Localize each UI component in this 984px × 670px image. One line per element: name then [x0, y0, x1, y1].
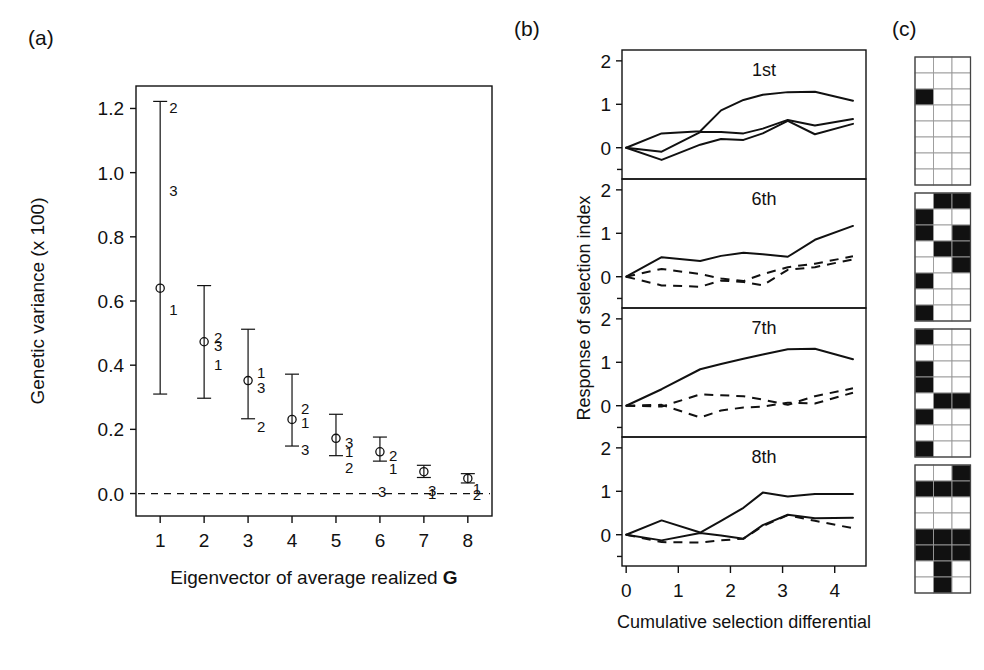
panel-c-cell-empty: [915, 393, 934, 409]
panel-b-series-dashed: [626, 515, 853, 542]
panel-a-x-tick-label: 5: [331, 530, 342, 551]
panel-c-cell-empty: [934, 409, 953, 425]
panel-c-cell-empty: [915, 73, 934, 89]
panel-c-cell-empty: [952, 441, 971, 457]
panel-c-cell-filled: [952, 241, 971, 257]
panel-c-cell-empty: [934, 73, 953, 89]
panel-b-series-solid: [626, 121, 853, 160]
panel-c-cell-empty: [915, 289, 934, 305]
panel-c-cell-empty: [934, 257, 953, 273]
panel-c-cell-empty: [952, 497, 971, 513]
panel-b-subplot-8th: 0128th01234Cumulative selection differen…: [600, 437, 870, 632]
panel-b-x-axis: 01234Cumulative selection differential: [617, 566, 871, 632]
panel-b-subplot-title: 8th: [751, 447, 776, 467]
panel-c-cell-empty: [915, 193, 934, 209]
panel-b-y-tick-label: 0: [600, 525, 611, 546]
panel-c-cell-filled: [915, 209, 934, 225]
panel-b-series-dashed: [626, 256, 853, 281]
panel-c-cell-empty: [952, 73, 971, 89]
panel-c-cell-empty: [934, 441, 953, 457]
panel-c-cell-empty: [952, 425, 971, 441]
panel-b-series-solid: [626, 515, 853, 541]
panel-a-replicate-label: 2: [345, 459, 353, 476]
panel-b-y-tick-label: 0: [600, 138, 611, 159]
panel-a-replicate-label: 2: [169, 99, 177, 116]
panel-a-replicate-label: 3: [301, 441, 309, 458]
panel-c-cell-filled: [934, 193, 953, 209]
panel-c-block-2: [915, 193, 971, 321]
panel-c-cell-empty: [934, 361, 953, 377]
panel-c-cell-empty: [934, 209, 953, 225]
panel-c-cell-filled: [952, 481, 971, 497]
panel-c-cell-empty: [915, 169, 934, 185]
panel-b-series-solid: [626, 493, 853, 535]
panel-a-x-axis-title-text: Eigenvector of average realized: [170, 567, 443, 588]
panel-c-cell-empty: [934, 329, 953, 345]
panel-c-cell-filled: [952, 257, 971, 273]
panel-c-cell-filled: [915, 441, 934, 457]
panel-b-subplot-frame: [622, 437, 866, 566]
panel-b-y-tick-label: 2: [600, 438, 611, 459]
panel-a-replicate-label: 3: [169, 182, 177, 199]
panel-b-y-tick-label: 1: [600, 481, 611, 502]
panel-a-x-tick-label: 1: [155, 530, 166, 551]
panel-c-cell-empty: [915, 465, 934, 481]
panel-c-cell-filled: [952, 545, 971, 561]
panel-c-cell-filled: [934, 393, 953, 409]
panel-c-cell-filled: [915, 305, 934, 321]
panel-c-cell-empty: [934, 89, 953, 105]
panel-b-series-dashed: [626, 388, 853, 406]
panel-a-y-axis: 1.21.00.80.60.40.20.0Genetic variance (x…: [27, 98, 136, 504]
panel-c-cell-empty: [915, 345, 934, 361]
panel-c-cell-empty: [934, 377, 953, 393]
panel-b-x-tick-label: 3: [777, 580, 788, 601]
panel-a-replicate-label: 3: [257, 379, 265, 396]
panel-c-cell-empty: [934, 137, 953, 153]
panel-c-cell-filled: [952, 393, 971, 409]
panel-a-replicate-label: 1: [345, 443, 353, 460]
panel-c-cell-empty: [915, 57, 934, 73]
panel-a-data-point: [373, 437, 387, 461]
panel-a-data-point: [285, 374, 299, 446]
panel-a-plot-frame: [136, 86, 492, 516]
panel-c-cell-filled: [952, 465, 971, 481]
panel-c-letter: (c): [892, 17, 917, 40]
panel-a-replicate-label: 1: [169, 301, 177, 318]
panel-c-block-4: [915, 465, 971, 593]
panel-a-y-tick-label: 1.0: [98, 163, 124, 184]
panel-b-y-tick-label: 0: [600, 267, 611, 288]
panel-a-data-point: [417, 465, 431, 477]
panel-a-x-tick-label: 3: [243, 530, 254, 551]
panel-c-cell-empty: [952, 377, 971, 393]
panel-c-cell-empty: [934, 289, 953, 305]
panel-c-cell-empty: [952, 305, 971, 321]
panel-a-letter: (a): [28, 26, 54, 49]
panel-a-x-axis-title: Eigenvector of average realized G: [170, 567, 457, 588]
panel-c-cell-filled: [952, 193, 971, 209]
panel-a-y-tick-label: 0.2: [98, 419, 124, 440]
panel-c-cell-empty: [934, 105, 953, 121]
panel-c-cell-filled: [915, 361, 934, 377]
panel-c-cell-filled: [915, 545, 934, 561]
panel-c-cell-empty: [952, 57, 971, 73]
panel-a-data-point: [241, 329, 255, 419]
panel-a-y-tick-label: 0.6: [98, 291, 124, 312]
panel-b-subplot-frame: [622, 179, 866, 308]
panel-a-replicate-label: 3: [378, 483, 386, 500]
panel-a-data-point: [329, 414, 343, 455]
panel-c-cell-empty: [934, 513, 953, 529]
panel-a-replicate-label: 3: [214, 337, 222, 354]
panel-a-x-tick-label: 6: [375, 530, 386, 551]
panel-c-cell-empty: [952, 121, 971, 137]
panel-b-subplot-1st: 0121st: [600, 50, 866, 179]
panel-c-cell-empty: [934, 345, 953, 361]
panel-b-y-tick-label: 0: [600, 396, 611, 417]
panel-b-letter: (b): [514, 17, 540, 40]
panel-b-y-tick-label: 2: [600, 51, 611, 72]
panel-c-cell-empty: [952, 345, 971, 361]
panel-c-cell-empty: [934, 425, 953, 441]
panel-c-cell-filled: [934, 529, 953, 545]
panel-c-cell-empty: [952, 209, 971, 225]
panel-c-cell-filled: [934, 561, 953, 577]
panel-b-y-axis-title: Response of selection index: [574, 195, 594, 420]
